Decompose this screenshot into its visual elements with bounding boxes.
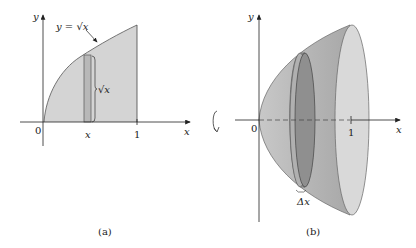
tick-one-label: 1 [348,127,354,138]
disk-thickness-label: Δx [296,196,310,207]
panel-b: y x 0 1 Δx (b) [213,11,402,237]
approximating-strip [84,55,91,122]
curve-equation-label: y = √x [55,21,89,32]
tick-one-label: 1 [134,129,140,140]
origin-label: 0 [35,125,41,136]
rotation-arrow-icon [213,111,219,132]
caption-b: (b) [306,226,320,237]
x-axis-label: x [396,124,402,135]
strip-height-label: √x [98,84,110,95]
caption-a: (a) [98,226,112,237]
strip-x-label: x [85,129,91,140]
y-axis-label: y [32,11,39,22]
panel-a: y x 0 1 x y = √x √x (a) [20,11,190,237]
x-axis-label: x [184,126,190,137]
origin-label: 0 [251,123,257,134]
y-axis-label: y [247,11,254,22]
